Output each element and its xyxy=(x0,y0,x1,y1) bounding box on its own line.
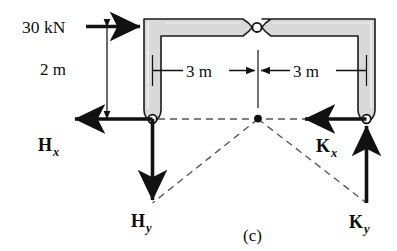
resultant-intersection-point xyxy=(254,115,262,123)
load-label-30kn: 30 kN xyxy=(22,17,66,37)
dimension-label-3m-left: 3 m xyxy=(186,62,212,81)
dimension-label-3m-right: 3 m xyxy=(293,62,319,81)
figure-caption: (c) xyxy=(243,226,262,245)
center-hinge-pin-icon xyxy=(252,23,261,32)
frame-free-body-diagram: 30 kN 2 m 3 m 3 m Hx xyxy=(0,0,397,251)
figure-container: 30 kN 2 m 3 m 3 m Hx xyxy=(0,0,397,251)
dimension-label-2m: 2 m xyxy=(40,60,66,79)
canvas-background xyxy=(0,0,397,251)
